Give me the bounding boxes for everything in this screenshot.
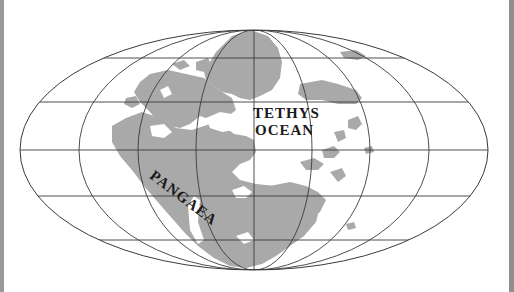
- tethys-label-line2: OCEAN: [255, 123, 320, 138]
- world-map: [0, 0, 514, 292]
- tethys-ocean-label: TETHYS OCEAN: [253, 106, 320, 138]
- land-pangaea: [112, 20, 374, 268]
- tethys-label-line1: TETHYS: [253, 106, 320, 121]
